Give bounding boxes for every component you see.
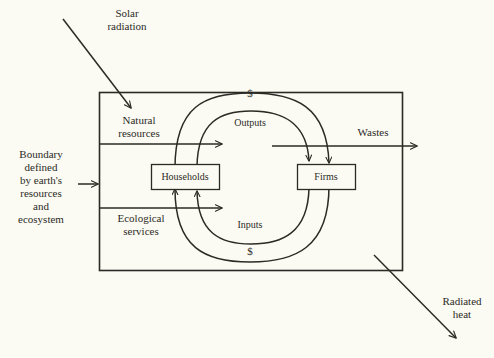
money-flow-bottom-label: $	[232, 245, 268, 258]
outputs-flow-label: Outputs	[215, 117, 285, 129]
firms-label: Firms	[297, 164, 355, 189]
ecological-services-label: Ecological services	[101, 212, 181, 238]
radiated-heat-label: Radiated heat	[434, 295, 490, 321]
inner-arc-inputs	[197, 188, 309, 244]
boundary-label: Boundary defined by earth's resources an…	[2, 148, 80, 226]
households-label: Households	[151, 164, 219, 189]
solar-radiation-label: Solar radiation	[72, 7, 182, 33]
wastes-label: Wastes	[345, 126, 401, 139]
natural-resources-label: Natural resources	[101, 114, 177, 140]
inputs-flow-label: Inputs	[215, 219, 285, 231]
economy-environment-diagram: Solar radiation Boundary defined by eart…	[0, 0, 494, 358]
money-flow-top-label: $	[232, 87, 268, 100]
